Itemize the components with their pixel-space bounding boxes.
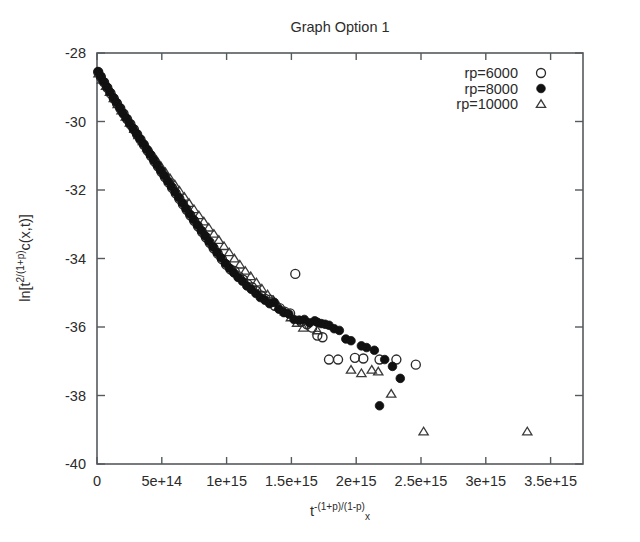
legend-label-2: rp=10000 — [456, 96, 518, 112]
y-tick-label: -36 — [65, 319, 86, 335]
x-tick-label: 0 — [93, 473, 101, 489]
series-rp-6000 — [94, 68, 421, 369]
page-title: Graph Option 1 — [290, 19, 389, 35]
x-tick-label: 2e+15 — [336, 473, 377, 489]
x-tick-label: 1e+15 — [206, 473, 247, 489]
legend-marker-open-triangle-icon — [536, 100, 545, 108]
y-tick-label: -28 — [65, 45, 86, 61]
x-tick-label: 3e+15 — [465, 473, 506, 489]
y-tick-label: -32 — [65, 182, 86, 198]
x-tick-label: 2.5e+15 — [395, 473, 448, 489]
series-rp-8000 — [94, 67, 405, 410]
y-axis-label: ln[t2/(1+p)c(x,t)] — [15, 214, 33, 302]
legend-marker-filled-circle-icon — [537, 84, 546, 93]
x-axis-label: t-(1+p)/(1-p)x — [310, 501, 370, 522]
legend-label-1: rp=8000 — [464, 81, 518, 97]
x-tick-label: 3.5e+15 — [524, 473, 577, 489]
x-tick-label: 5e+14 — [141, 473, 182, 489]
y-tick-label: -34 — [65, 251, 86, 267]
chart-legend: rp=6000rp=8000rp=10000 — [456, 65, 545, 112]
scatter-plot: Graph Option 1 05e+141e+151.5e+152e+152.… — [0, 0, 640, 542]
figure-container: Graph Option 1 05e+141e+151.5e+152e+152.… — [0, 0, 640, 542]
y-tick-label: -38 — [65, 388, 86, 404]
legend-label-0: rp=6000 — [464, 65, 518, 81]
plot-frame — [97, 53, 583, 464]
y-tick-label: -30 — [65, 114, 86, 130]
legend-marker-open-circle-icon — [537, 69, 546, 78]
y-tick-label: -40 — [65, 456, 86, 472]
x-tick-label: 1.5e+15 — [265, 473, 318, 489]
series-rp-10000 — [94, 69, 532, 434]
x-axis-ticks: 05e+141e+151.5e+152e+152.5e+153e+153.5e+… — [93, 53, 577, 489]
data-points-layer — [94, 67, 532, 435]
